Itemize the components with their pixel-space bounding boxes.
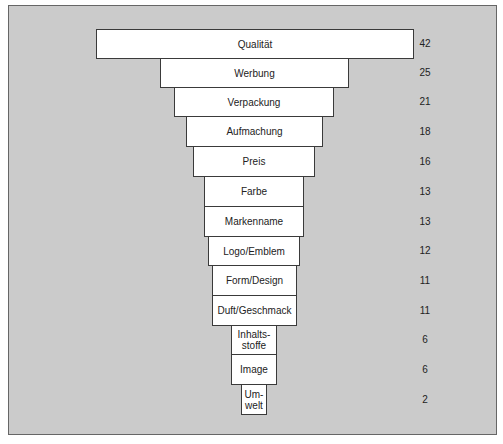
funnel-bar: Preis — [193, 146, 315, 177]
funnel-bar: Image — [231, 354, 277, 385]
bar-value: 6 — [410, 334, 440, 346]
bar-label: Image — [240, 364, 268, 375]
bar-value: 11 — [410, 305, 440, 317]
bar-value: 21 — [410, 96, 440, 108]
funnel-bar: Werbung — [160, 58, 349, 88]
bar-value: 6 — [410, 364, 440, 376]
bar-value: 12 — [410, 245, 440, 257]
bar-value: 11 — [410, 275, 440, 287]
funnel-bar: Duft/Geschmack — [212, 295, 297, 326]
bar-label: Qualität — [238, 39, 272, 50]
bar-value: 18 — [410, 126, 440, 138]
funnel-bar: Form/Design — [212, 265, 297, 296]
funnel-bar: Verpackung — [174, 87, 334, 117]
bar-value: 13 — [410, 216, 440, 228]
bar-label: Aufmachung — [226, 126, 282, 137]
bar-label: Duft/Geschmack — [218, 305, 292, 316]
bar-label: Farbe — [241, 186, 267, 197]
bar-value: 16 — [410, 156, 440, 168]
funnel-bar: Um-welt — [241, 384, 267, 415]
bar-value: 42 — [410, 38, 440, 50]
funnel-bar: Qualität — [96, 29, 414, 59]
funnel-bar: Inhalts-stoffe — [231, 325, 277, 355]
bar-label: Verpackung — [228, 97, 281, 108]
bar-label: Preis — [243, 156, 266, 167]
bar-value: 25 — [410, 67, 440, 79]
bar-label: Inhalts-stoffe — [238, 329, 271, 351]
bar-label: Werbung — [234, 68, 274, 79]
bar-value: 2 — [410, 394, 440, 406]
funnel-bar: Aufmachung — [186, 116, 323, 147]
bar-label: Form/Design — [226, 275, 283, 286]
bar-label: Um-welt — [245, 389, 264, 411]
funnel-bar: Logo/Emblem — [208, 236, 300, 266]
bar-value: 13 — [410, 186, 440, 198]
bar-label: Logo/Emblem — [223, 246, 285, 257]
funnel-bar: Markenname — [204, 206, 304, 237]
bar-label: Markenname — [225, 216, 283, 227]
funnel-bar: Farbe — [204, 176, 304, 207]
